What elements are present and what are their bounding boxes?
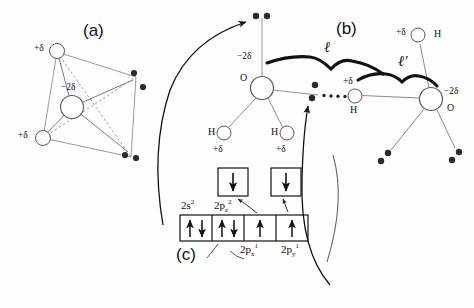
orbital-label-2py-sup: 1 <box>296 242 300 250</box>
panel-b-left-oh-bonds <box>228 98 283 128</box>
panel-a-hydrogen-atom-top <box>50 44 65 59</box>
panel-c-tick <box>207 244 218 258</box>
orbital-box-row <box>180 215 308 241</box>
panel-a-charge-h-bottom: +δ <box>18 131 28 141</box>
panel-b-tag: (b) <box>336 20 357 37</box>
panel-b-left-hydrogen-atom-1 <box>217 126 231 140</box>
figure-canvas: (a) +δ +δ −2δ (b) −2δ O H +δ H +δ +δ H +… <box>0 0 474 308</box>
orbital-label-2s-base: 2s <box>181 199 191 211</box>
panel-c-bracket-right <box>327 155 338 262</box>
orbital-label-2px-sup: 1 <box>255 242 259 250</box>
panel-b-right-oxygen-symbol: O <box>447 103 454 113</box>
panel-b-top-right-hydrogen-atom <box>411 28 425 42</box>
orbital-label-2px-base: 2p <box>240 243 251 255</box>
panel-a-tetrahedron-edges <box>43 52 136 157</box>
diagram-vector-layer <box>0 0 474 308</box>
panel-b-bridging-hydrogen-symbol: H <box>350 105 357 115</box>
orbital-label-2pz-base: 2p <box>214 199 225 211</box>
orbital-label-2px-sub: x <box>251 250 255 258</box>
panel-b-right-oh-bond <box>362 96 419 99</box>
panel-b-left-hydrogen-symbol-1: H <box>208 127 215 137</box>
panel-b-left-hydrogen-symbol-2: H <box>271 127 278 137</box>
orbital-label-2py-sub: y <box>292 250 296 258</box>
panel-c-tag: (c) <box>176 246 196 263</box>
orbital-label-2pz: 2pz2 <box>214 199 232 214</box>
brace-l <box>267 57 383 74</box>
panel-b-right-lonepair-dots <box>378 149 462 164</box>
panel-b-right-lonepair-stems <box>391 109 455 150</box>
panel-b-left-hydrogen-atom-2 <box>280 126 294 140</box>
orbital-label-2px: 2px1 <box>240 243 258 258</box>
orbital-label-2py: 2py1 <box>281 243 299 258</box>
panel-a-tag: (a) <box>83 22 104 39</box>
promotion-arrows <box>238 199 288 213</box>
panel-c-graphic <box>180 155 338 262</box>
lone-pair-callout-arrow-right <box>302 106 330 285</box>
bond-length-label-l-prime: ℓ′ <box>398 54 408 69</box>
orbital-label-2s-sup: 2 <box>191 198 195 206</box>
panel-a-charge-oxygen: −2δ <box>61 83 76 93</box>
panel-b-left-hydrogen-charge-2: +δ <box>276 145 286 155</box>
panel-b-right-oxygen-charge: −2δ <box>444 87 459 97</box>
panel-b-left-oxygen-atom <box>251 77 274 100</box>
orbital-label-2py-base: 2p <box>281 243 292 255</box>
orbital-label-2pz-sub: z <box>225 206 228 214</box>
orbital-label-2s: 2s2 <box>181 199 194 211</box>
orbital-label-2pz-sup: 2 <box>228 198 232 206</box>
panel-b-top-right-hydrogen-symbol: H <box>434 29 441 39</box>
panel-b-bridging-hydrogen-atom <box>348 89 362 103</box>
panel-a-graphic <box>36 44 147 162</box>
panel-a-oxygen-atom <box>61 96 84 119</box>
panel-b-left-oxygen-symbol: O <box>240 73 247 83</box>
panel-b-bridging-hydrogen-charge: +δ <box>343 77 353 87</box>
panel-b-right-oh-bond-top <box>420 44 429 88</box>
panel-b-left-oxygen-charge: −2δ <box>237 52 252 62</box>
panel-a-hydrogen-atom-bottom <box>36 131 51 146</box>
brace-l-prime <box>358 74 437 86</box>
panel-b-right-oxygen-atom <box>420 88 443 111</box>
panel-b-top-right-hydrogen-charge: +δ <box>396 28 406 38</box>
panel-a-charge-h-top: +δ <box>34 44 44 54</box>
panel-b-left-lonepair-dots-2 <box>309 82 318 101</box>
panel-b-left-hydrogen-charge-1: +δ <box>213 145 223 155</box>
bond-length-label-l: ℓ <box>324 40 330 55</box>
